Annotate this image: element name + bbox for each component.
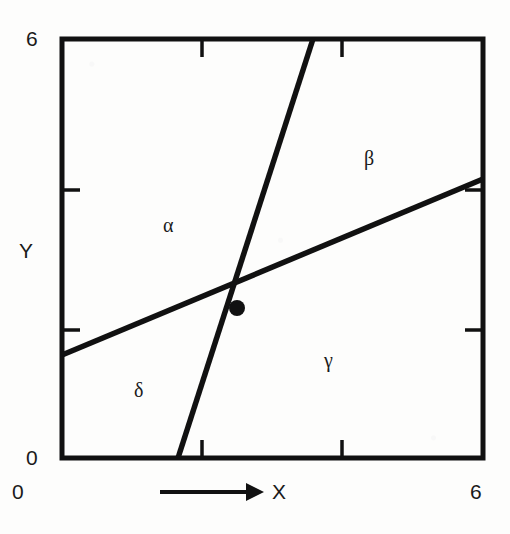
plot-frame <box>62 39 483 458</box>
x-direction-arrow <box>160 483 264 501</box>
region-label-beta: β <box>364 148 374 168</box>
shallow-boundary-line <box>62 179 483 355</box>
phase-diagram-figure: 6 0 0 6 Y X α β γ δ <box>0 0 510 534</box>
x-axis-label: X <box>272 481 286 502</box>
frame-box <box>62 39 483 458</box>
xtick-label-min: 0 <box>12 481 24 502</box>
region-label-alpha: α <box>163 215 173 235</box>
steep-boundary-line <box>178 39 313 458</box>
region-label-gamma: γ <box>324 350 333 370</box>
region-label-delta: δ <box>134 380 143 400</box>
triple-point-marker <box>229 300 245 316</box>
arrow-head <box>246 483 264 501</box>
plot-canvas <box>0 0 510 534</box>
ytick-label-max: 6 <box>26 28 38 49</box>
xtick-label-max: 6 <box>470 481 482 502</box>
y-axis-label: Y <box>19 240 33 261</box>
ytick-label-min: 0 <box>26 447 38 468</box>
tick-marks <box>62 39 483 458</box>
